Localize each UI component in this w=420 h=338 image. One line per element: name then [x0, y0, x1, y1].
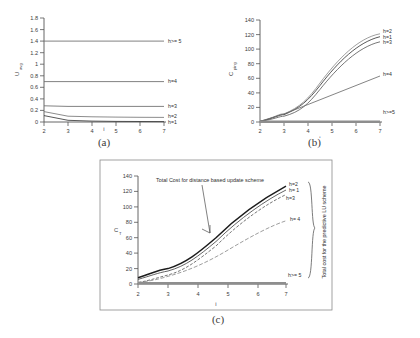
chart-a-xtick-0: 2	[42, 128, 45, 134]
chart-c-label-h1: h= 1	[289, 187, 299, 193]
chart-b-yaxis: 0 20 40 60 80 100 120 140	[245, 17, 260, 125]
chart-a-ylabel-base: U	[14, 72, 20, 76]
chart-a-curve-h1	[44, 116, 164, 122]
chart-c-xtick-5: 7	[284, 291, 287, 297]
chart-c-annotation-left: Total Cost for distance based update sch…	[156, 177, 264, 233]
chart-c-ylabel: C T	[114, 227, 122, 236]
chart-b-ytick-3: 60	[248, 75, 254, 81]
chart-a-ytick-9: 1.8	[30, 15, 38, 21]
chart-a-curve-h2	[44, 112, 164, 118]
chart-a-xtick-3: 5	[114, 128, 117, 134]
chart-b-xtick-3: 5	[330, 128, 333, 134]
chart-a-curve-h3	[44, 106, 164, 107]
chart-b-ytick-7: 140	[245, 17, 254, 23]
chart-c-xtick-3: 5	[226, 291, 229, 297]
chart-b-label-h3: h=3	[383, 39, 392, 45]
chart-c-ytick-6: 120	[123, 188, 132, 194]
chart-c-xtick-4: 6	[256, 291, 259, 297]
chart-a-ytick-7: 1.4	[30, 38, 38, 44]
chart-c-xtick-1: 3	[166, 291, 169, 297]
chart-a-label-h5: h>= 5	[168, 38, 181, 44]
chart-b-ylabel-sub: ping	[232, 61, 237, 70]
chart-a-label-h1: h=1	[168, 119, 177, 125]
chart-b-ytick-4: 80	[248, 61, 254, 67]
chart-b-ytick-6: 120	[245, 32, 254, 38]
chart-b-label-h4: h=4	[383, 71, 392, 77]
chart-a-xtick-5: 7	[162, 128, 165, 134]
chart-c-annotation-right: Total cost for the predictive LU scheme	[321, 186, 327, 279]
chart-c-ytick-2: 40	[126, 250, 132, 256]
chart-a-svg: 0 0.2 0.4 0.6 0.8 1 1.2 1.4 1.6 1.8 U av…	[4, 4, 204, 138]
chart-c-label-h5: h>= 5	[288, 272, 301, 278]
chart-a-ytick-0: 0	[35, 119, 38, 125]
chart-b-xtick-4: 6	[354, 128, 357, 134]
chart-a-series-labels: h>= 5 h=4 h=3 h=2 h=1	[168, 38, 181, 125]
chart-a-xtick-1: 3	[66, 128, 69, 134]
chart-b-ylabel: C ping	[228, 61, 237, 76]
chart-c-curve-h1	[138, 190, 286, 279]
chart-b-curve-h2	[260, 34, 380, 122]
chart-a-label-h3: h=3	[168, 103, 177, 109]
chart-b-series-labels: h=2 h=1 h=3 h=4 h>=5	[383, 28, 395, 115]
chart-b-ytick-1: 20	[248, 104, 254, 110]
chart-c-ytick-1: 20	[126, 266, 132, 272]
chart-a-xtick-2: 4	[90, 128, 93, 134]
chart-c-label-h3: h=3	[286, 195, 295, 201]
chart-panel-b: 0 20 40 60 80 100 120 140 C ping	[212, 4, 417, 154]
chart-c-ytick-3: 60	[126, 235, 132, 241]
chart-b-ytick-2: 40	[248, 90, 254, 96]
chart-a-ytick-6: 1.2	[30, 50, 38, 56]
chart-b-xtick-5: 7	[378, 128, 381, 134]
chart-a-ylabel-sub: avg	[18, 63, 23, 70]
chart-b-ytick-5: 100	[245, 46, 254, 52]
caption-c: (c)	[98, 313, 338, 325]
chart-b-xtick-0: 2	[258, 128, 261, 134]
chart-c-ytick-4: 80	[126, 219, 132, 225]
chart-c-xaxis: 2 3 4 5 6 7 i	[136, 284, 288, 307]
chart-b-ylabel-base: C	[228, 72, 234, 76]
figure-root: 0 0.2 0.4 0.6 0.8 1 1.2 1.4 1.6 1.8 U av…	[0, 0, 420, 338]
chart-b-ytick-0: 0	[251, 119, 254, 125]
chart-b-label-h5: h>=5	[383, 109, 395, 115]
chart-panel-a: 0 0.2 0.4 0.6 0.8 1 1.2 1.4 1.6 1.8 U av…	[4, 4, 204, 154]
chart-a-label-h4: h=4	[168, 78, 177, 84]
chart-c-curve-h2	[138, 186, 286, 278]
chart-c-right-brace	[308, 182, 315, 278]
chart-c-annot-text: Total Cost for distance based update sch…	[156, 177, 264, 183]
chart-a-ytick-2: 0.4	[30, 96, 38, 102]
chart-c-series-labels: h=2 h= 1 h=3 h= 4 h>= 5	[286, 181, 301, 278]
chart-c-curve-h3	[138, 195, 286, 283]
chart-a-xtick-4: 6	[138, 128, 141, 134]
chart-a-ytick-3: 0.6	[30, 84, 38, 90]
chart-a-yaxis: 0 0.2 0.4 0.6 0.8 1 1.2 1.4 1.6 1.8	[30, 15, 44, 125]
chart-a-xlabel: i	[103, 126, 104, 132]
chart-c-xtick-2: 4	[196, 291, 199, 297]
chart-c-ytick-7: 140	[123, 173, 132, 179]
chart-b-xtick-2: 4	[306, 128, 309, 134]
chart-a-ytick-8: 1.6	[30, 27, 38, 33]
chart-c-xtick-0: 2	[136, 291, 139, 297]
chart-a-ytick-1: 0.2	[30, 107, 38, 113]
chart-b-xtick-1: 3	[282, 128, 285, 134]
chart-c-ytick-5: 100	[123, 204, 132, 210]
caption-b: (b)	[212, 136, 417, 148]
chart-a-yticks	[40, 18, 44, 122]
chart-a-ytick-5: 1	[35, 61, 38, 67]
chart-c-ylabel-sub: T	[119, 231, 122, 236]
chart-panel-c: 0 20 40 60 80 100 120 140 C T	[98, 158, 338, 336]
caption-a: (a)	[4, 136, 204, 148]
chart-a-series	[44, 41, 164, 122]
chart-c-yaxis: 0 20 40 60 80 100 120 140	[123, 173, 138, 287]
chart-c-svg: 0 20 40 60 80 100 120 140 C T	[98, 158, 338, 316]
chart-c-label-h4: h= 4	[290, 216, 300, 222]
chart-c-curve-h4	[138, 221, 286, 283]
chart-c-ylabel-base: C	[114, 227, 118, 233]
chart-c-xlabel: i	[215, 301, 216, 307]
chart-a-ylabel: U avg	[14, 63, 23, 77]
chart-a-xaxis: 2 3 4 5 6 7 i	[42, 122, 166, 134]
chart-b-curve-h3	[260, 42, 380, 122]
chart-a-ytick-4: 0.8	[30, 73, 38, 79]
chart-c-annot-right-text: Total cost for the predictive LU scheme	[321, 186, 327, 279]
chart-b-series	[260, 34, 380, 122]
chart-c-series	[138, 186, 286, 283]
